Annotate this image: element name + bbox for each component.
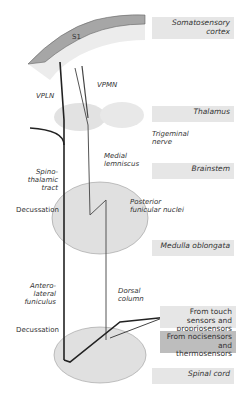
medulla-shape: [52, 182, 148, 254]
label-decussation-upper: Decussation: [16, 206, 59, 214]
region-medulla: Medulla oblongata: [152, 240, 234, 256]
branch-to-left: [30, 128, 64, 145]
source-noci: From nocisensors and thermosensors: [160, 331, 236, 353]
thalamus-right: [100, 102, 144, 128]
label-trigeminal: Trigeminal nerve: [152, 130, 197, 146]
label-vpln: VPLN: [36, 92, 54, 100]
label-dorsal-column: Dorsal column: [118, 287, 154, 303]
region-cortex: Somatosensory cortex: [152, 17, 234, 39]
label-s1: S1: [72, 33, 81, 41]
label-posterior-funicular: Posterior funicular nuclei: [130, 198, 190, 214]
region-thalamus: Thalamus: [152, 106, 234, 122]
region-spinal: Spinal cord: [152, 368, 234, 384]
thalamus-left: [54, 103, 106, 131]
label-medial-lemniscus: Medial lemniscus: [104, 152, 149, 168]
label-decussation-lower: Decussation: [16, 326, 59, 334]
region-brainstem: Brainstem: [152, 163, 234, 179]
source-touch: From touch sensors and propriosensors: [160, 306, 236, 328]
label-spinothalamic: Spino-thalamic tract: [26, 168, 58, 192]
label-anterolateral: Antero-lateral funiculus: [14, 282, 56, 306]
spinal-cord-shape: [54, 327, 146, 383]
label-vpmn: VPMN: [97, 81, 117, 89]
